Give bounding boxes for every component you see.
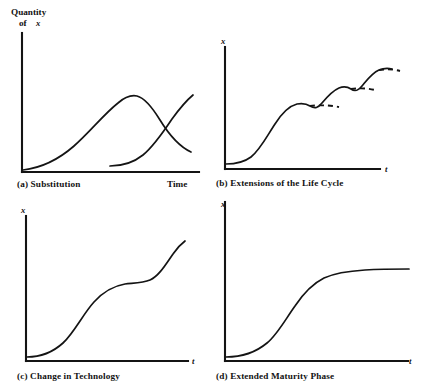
panel-c-curve-technology (27, 241, 185, 357)
panel-b-curve-staircase (226, 68, 392, 164)
panel-extended-maturity-phase: x t (d) Extended Maturity Phase (213, 196, 426, 391)
panel-a-curve-substitute (110, 95, 193, 166)
panel-b-plateau-dashed-2 (351, 88, 375, 90)
panel-change-in-technology: x t (c) Change in Technology (0, 196, 213, 391)
panel-b-plateau-dashed-1 (310, 105, 339, 107)
panel-a-caption: (a) Substitution (17, 179, 80, 189)
panel-extensions-life-cycle: x t (b) Extensions of the Life Cycle (213, 0, 426, 195)
panel-d-caption: (d) Extended Maturity Phase (216, 371, 334, 381)
panel-b-xlabel: t (385, 164, 388, 174)
panel-substitution: Quantity of x (a) Substitution Time (0, 0, 213, 195)
panel-d-xlabel: t (409, 356, 412, 366)
panel-c-caption: (c) Change in Technology (17, 371, 120, 381)
panel-a-ylabel-line1: Quantity (11, 7, 47, 17)
panel-a-ylabel-line2: of (19, 18, 28, 28)
panel-b-ylabel: x (220, 36, 226, 46)
panel-c-xlabel: t (192, 356, 195, 366)
panel-a-ylabel-symbol: x (35, 18, 41, 28)
panel-b-caption: (b) Extensions of the Life Cycle (216, 178, 344, 188)
panel-c-ylabel: x (20, 205, 26, 215)
panel-a-curve-incumbent (23, 96, 191, 170)
panel-a-xlabel: Time (167, 179, 187, 189)
figure-root: Quantity of x (a) Substitution Time x t … (0, 0, 427, 391)
panel-b-plateau-dashed-3 (379, 69, 400, 71)
panel-d-curve-saturation (226, 269, 409, 357)
